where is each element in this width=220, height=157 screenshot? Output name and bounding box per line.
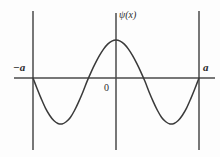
axis-label-right-boundary: a (203, 62, 209, 73)
axis-label-origin: 0 (104, 83, 109, 93)
wavefunction-figure: −a a ψ(x) 0 (0, 0, 220, 157)
axis-label-function: ψ(x) (119, 10, 136, 20)
axis-label-left-boundary: −a (13, 62, 25, 73)
plot-canvas (0, 0, 220, 157)
